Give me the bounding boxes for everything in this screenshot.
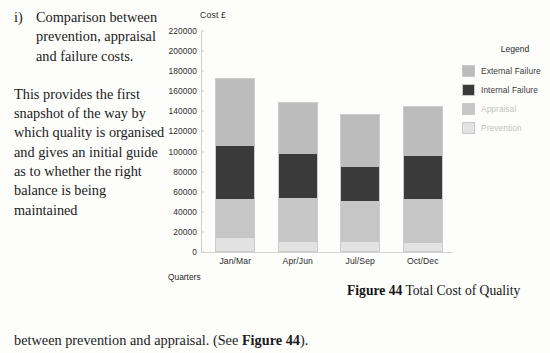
y-axis-tick-mark	[201, 71, 204, 72]
bar-segment-internal-failure	[278, 154, 318, 198]
bar-segment-external-failure	[340, 114, 380, 166]
x-axis-title: Quarters	[168, 272, 201, 282]
bar-segment-prevention	[278, 242, 318, 252]
legend-item-appraisal[interactable]: Appraisal	[462, 99, 550, 118]
legend-item-label: Appraisal	[481, 104, 517, 114]
figure-caption-text: Total Cost of Quality	[402, 283, 520, 298]
figure-caption-label: Figure 44	[347, 283, 402, 298]
x-axis-label-oct-dec: Oct/Dec	[388, 256, 458, 266]
body-text-column: i) Comparison between prevention, apprai…	[14, 8, 166, 220]
y-axis-tick-mark	[201, 51, 204, 52]
legend-items: External FailureInternal FailureAppraisa…	[462, 61, 550, 137]
y-axis-tick-mark	[201, 191, 204, 192]
legend-item-prevention[interactable]: Prevention	[462, 118, 550, 137]
y-axis-tick-mark	[201, 211, 204, 212]
y-axis-tick-label: 160000	[168, 86, 201, 96]
y-axis-tick-label: 140000	[168, 106, 201, 116]
paragraph-spacer	[14, 66, 166, 85]
y-axis-tick-label: 200000	[168, 46, 201, 56]
bar-segment-appraisal	[340, 201, 380, 242]
y-axis-tick-label: 180000	[168, 66, 201, 76]
legend-item-label: Prevention	[481, 123, 522, 133]
y-axis-tick-mark	[201, 231, 204, 232]
y-axis-tick-mark	[201, 131, 204, 132]
body-paragraph: This provides the first snapshot of the …	[14, 85, 166, 220]
legend-item-external-failure[interactable]: External Failure	[462, 61, 550, 80]
y-axis-tick-label: 100000	[168, 147, 201, 157]
bar-segment-prevention	[340, 242, 380, 252]
bar-jul-sep[interactable]	[340, 114, 380, 252]
y-axis-tick-label: 220000	[168, 26, 201, 36]
y-axis-tick-mark	[201, 151, 204, 152]
list-item-text: Comparison between prevention, appraisal…	[36, 8, 166, 66]
bar-segment-prevention	[215, 238, 255, 252]
legend-item-internal-failure[interactable]: Internal Failure	[462, 80, 550, 99]
list-item-marker: i)	[14, 8, 36, 66]
x-axis-label-jul-sep: Jul/Sep	[325, 256, 395, 266]
bar-segment-internal-failure	[403, 156, 443, 199]
legend-swatch-icon	[462, 65, 475, 77]
y-axis-tick-mark	[201, 252, 204, 253]
legend-title: Legend	[480, 44, 550, 54]
bar-segment-external-failure	[403, 106, 443, 155]
x-axis-label-jan-mar: Jan/Mar	[200, 256, 270, 266]
legend-item-label: Internal Failure	[481, 85, 538, 95]
bar-segment-appraisal	[278, 198, 318, 242]
y-axis-tick-mark	[201, 171, 204, 172]
tail-figure-reference: Figure 44	[242, 332, 300, 348]
legend-swatch-icon	[462, 103, 475, 115]
y-axis-tick-label: 80000	[173, 167, 201, 177]
bar-segment-appraisal	[403, 199, 443, 243]
y-axis-tick-label: 40000	[173, 207, 201, 217]
bar-segment-external-failure	[215, 78, 255, 145]
legend-swatch-icon	[462, 84, 475, 96]
bar-apr-jun[interactable]	[278, 102, 318, 252]
x-axis-line	[201, 252, 453, 253]
chart-legend: Legend External FailureInternal FailureA…	[462, 44, 550, 137]
y-axis-tick-mark	[201, 31, 204, 32]
y-axis-tick-mark	[201, 91, 204, 92]
bar-segment-internal-failure	[215, 146, 255, 199]
figure-caption: Figure 44 Total Cost of Quality	[347, 283, 520, 299]
cost-of-quality-chart: Cost £ 220000200000180000160000140000120…	[168, 6, 550, 278]
bar-segment-prevention	[403, 243, 443, 252]
bar-segment-external-failure	[278, 102, 318, 153]
page-canvas: i) Comparison between prevention, apprai…	[0, 0, 550, 353]
body-text-final-line: between prevention and appraisal. (See F…	[14, 331, 444, 350]
bar-segment-appraisal	[215, 199, 255, 238]
tail-suffix-text: ).	[300, 332, 308, 348]
legend-item-label: External Failure	[481, 66, 541, 76]
y-axis-title: Cost £	[200, 10, 226, 20]
bar-jan-mar[interactable]	[215, 78, 255, 252]
plot-area: 2200002000001800001600001400001200001000…	[201, 31, 451, 252]
x-axis-label-apr-jun: Apr/Jun	[263, 256, 333, 266]
bar-oct-dec[interactable]	[403, 106, 443, 252]
bar-segment-internal-failure	[340, 167, 380, 201]
y-axis-tick-label: 20000	[173, 227, 201, 237]
y-axis-tick-label: 120000	[168, 126, 201, 136]
legend-swatch-icon	[462, 122, 475, 134]
y-axis-tick-mark	[201, 111, 204, 112]
numbered-list-item: i) Comparison between prevention, apprai…	[14, 8, 166, 66]
y-axis-tick-label: 60000	[173, 187, 201, 197]
tail-prefix-text: between prevention and appraisal. (See	[14, 332, 242, 348]
